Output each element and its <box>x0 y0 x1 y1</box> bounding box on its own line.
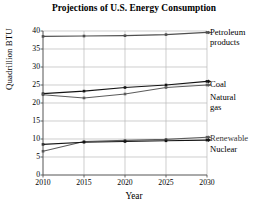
data-point-marker <box>124 93 127 96</box>
data-point-marker <box>83 35 86 38</box>
plot-area <box>43 31 207 175</box>
series-label-nuclear: Nuclear <box>210 145 237 155</box>
energy-consumption-chart: Projections of U.S. Energy Consumption 4… <box>0 0 268 210</box>
data-point-marker <box>165 33 168 36</box>
data-point-marker <box>83 141 86 144</box>
gridlines <box>43 31 207 175</box>
y-tick-40: 40 <box>14 27 40 35</box>
y-tick-15: 15 <box>14 117 40 125</box>
series-label-renewable: Renewable <box>210 134 248 144</box>
chart-title: Projections of U.S. Energy Consumption <box>0 3 268 13</box>
series-label-coal: Coal <box>210 80 226 90</box>
y-axis-title: Quadrillion BTU <box>4 0 14 119</box>
y-tick-25: 25 <box>14 81 40 89</box>
data-point-marker <box>124 140 127 143</box>
x-tick-2025: 2025 <box>146 178 186 187</box>
y-tick-30: 30 <box>14 63 40 71</box>
data-point-marker <box>165 84 168 87</box>
series-label-natural-line2: gas <box>210 103 221 113</box>
y-axis-tick-labels: 40 35 30 25 20 15 10 5 0 <box>12 31 40 175</box>
x-tick-2020: 2020 <box>105 178 145 187</box>
data-point-marker <box>206 80 209 83</box>
data-point-marker <box>83 97 86 100</box>
data-point-marker <box>83 90 86 93</box>
data-point-marker <box>206 31 209 34</box>
data-point-marker <box>206 139 209 142</box>
axis-lines <box>41 31 212 178</box>
data-point-marker <box>206 136 209 139</box>
data-point-marker <box>165 140 168 143</box>
x-tick-2030: 2030 <box>187 178 227 187</box>
x-axis-title: Year <box>0 191 268 201</box>
x-tick-2010: 2010 <box>23 178 63 187</box>
plot-svg <box>43 31 207 175</box>
data-point-marker <box>124 34 127 37</box>
series-labels: Petroleum products Coal Natural gas Rene… <box>210 31 268 177</box>
y-tick-35: 35 <box>14 45 40 53</box>
data-point-marker <box>165 86 168 89</box>
y-tick-5: 5 <box>14 153 40 161</box>
x-axis-tick-labels: 2010 2015 2020 2025 2030 <box>43 178 207 190</box>
x-tick-2015: 2015 <box>64 178 104 187</box>
data-point-marker <box>206 84 209 87</box>
series-label-petroleum-line2: products <box>210 38 240 48</box>
data-point-marker <box>124 86 127 89</box>
y-tick-10: 10 <box>14 135 40 143</box>
y-tick-20: 20 <box>14 99 40 107</box>
